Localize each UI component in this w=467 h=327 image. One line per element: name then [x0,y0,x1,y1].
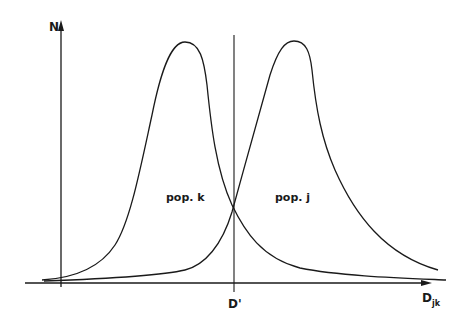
distribution-diagram [0,0,467,327]
x-axis-label: Djk [422,292,440,304]
curve-pop-j [44,41,438,281]
x-axis-label-sub: jk [432,299,440,308]
x-axis-label-main: D [422,291,432,305]
x-axis-arrow-icon [421,280,432,286]
y-axis-label: N [49,21,59,33]
pop-k-label: pop. k [166,192,205,203]
pop-j-label: pop. j [275,192,310,203]
curve-pop-k [42,42,446,280]
threshold-label: D' [228,298,242,310]
